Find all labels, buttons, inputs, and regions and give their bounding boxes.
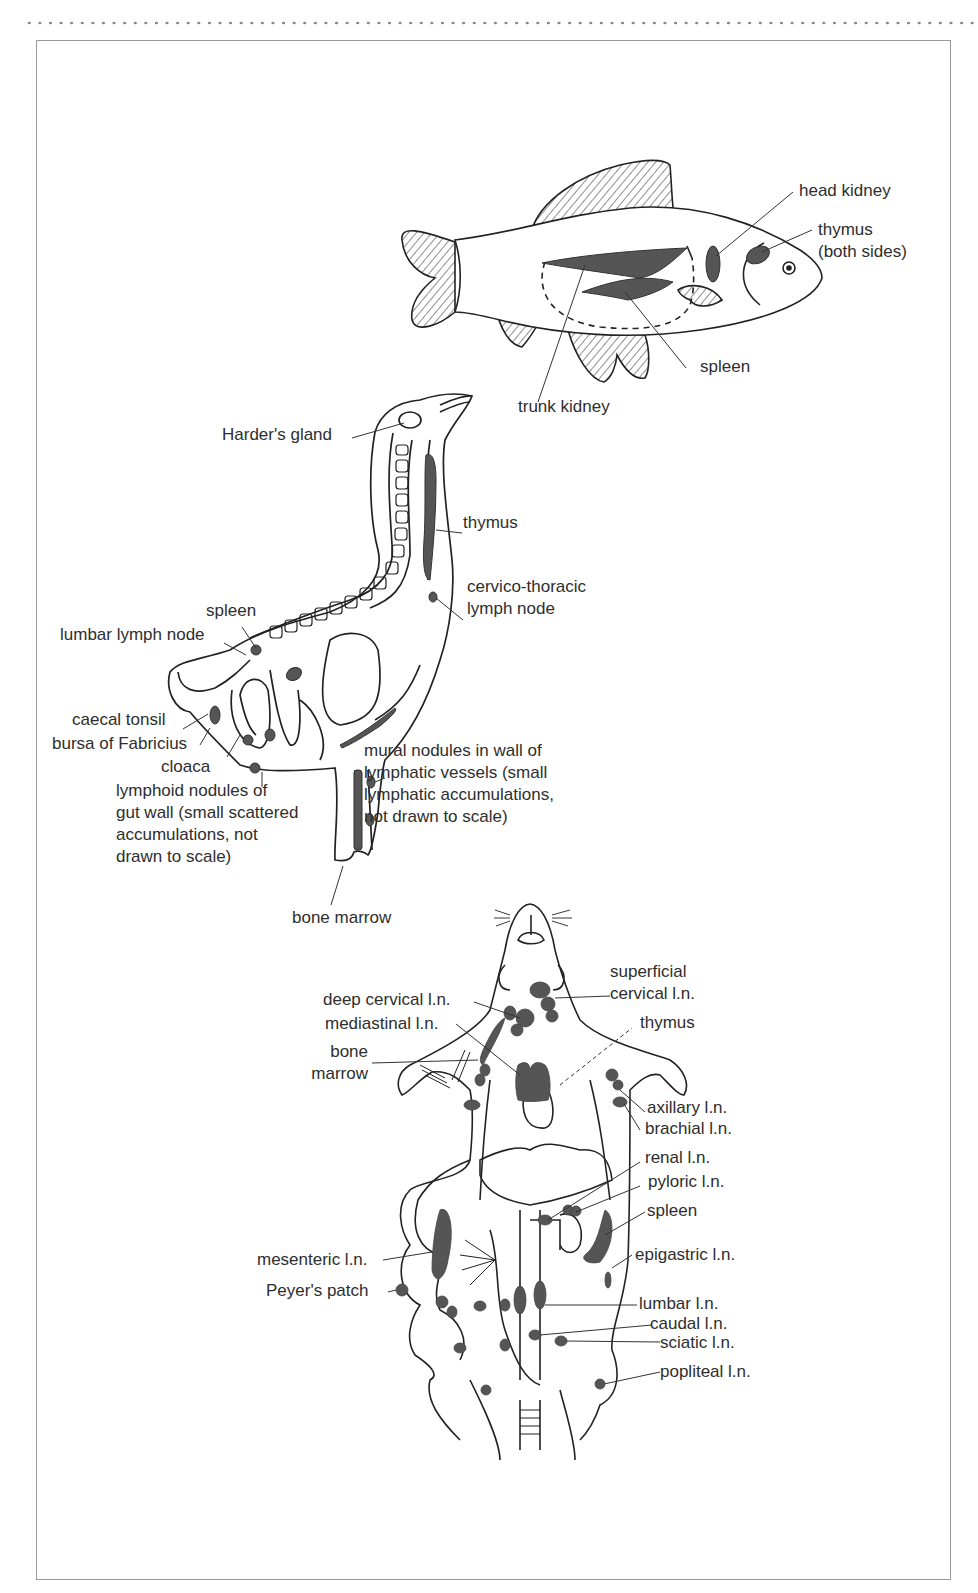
bird-label-caecal-tonsil: caecal tonsil — [72, 709, 166, 731]
mouse-superficial-cervical-3 — [546, 1010, 558, 1022]
bird-cervico-thoracic-node — [429, 592, 437, 602]
mouse-gut-nodule-5 — [454, 1343, 466, 1353]
bird-label-harders-gland: Harder's gland — [222, 424, 332, 446]
bird-label-lymphoid-nodules: lymphoid nodules of gut wall (small scat… — [116, 780, 298, 868]
bird-spleen — [251, 645, 261, 655]
bird-bone-marrow — [354, 770, 362, 850]
bird-gut-nodule-2 — [265, 729, 275, 741]
fish-label-spleen: spleen — [700, 356, 750, 378]
mouse-caudal — [529, 1330, 541, 1340]
mouse-bone-marrow-streak — [480, 1018, 505, 1065]
mouse-gut-nodule-6 — [500, 1339, 510, 1351]
fish-label-thymus: thymus (both sides) — [818, 219, 907, 263]
mouse-peyers-patch — [396, 1284, 408, 1296]
mouse-gut-nodule-1 — [436, 1296, 448, 1308]
mouse-label-superficial-cervical: superficial cervical l.n. — [610, 961, 695, 1005]
mouse-gut-nodule-3 — [474, 1301, 486, 1311]
mouse-axillary-right-1 — [606, 1069, 618, 1081]
bird-gut-nodule-3 — [250, 763, 260, 773]
bird-label-thymus: thymus — [463, 512, 518, 534]
mouse-gut-nodule-4 — [500, 1299, 510, 1311]
mouse-label-mesenteric: mesenteric l.n. — [257, 1249, 368, 1271]
mouse-mesenteric — [432, 1209, 451, 1278]
bird-label-bursa-of-fabricius: bursa of Fabricius — [52, 733, 187, 755]
bird-label-mural-nodules: mural nodules in wall of lymphatic vesse… — [364, 740, 554, 828]
mouse-label-brachial: brachial l.n. — [645, 1118, 732, 1140]
mouse-label-sciatic: sciatic l.n. — [660, 1332, 735, 1354]
bird-label-lumbar-lymph-node: lumbar lymph node — [60, 624, 205, 646]
bird-label-spleen: spleen — [206, 600, 256, 622]
mouse-label-mediastinal: mediastinal l.n. — [325, 1013, 438, 1035]
mouse-axillary-right-2 — [613, 1080, 623, 1090]
mouse-popliteal-right — [595, 1379, 605, 1389]
mouse-popliteal-left — [481, 1385, 491, 1395]
mouse-superficial-cervical-1 — [530, 982, 550, 998]
mouse-deep-cervical-2 — [511, 1024, 523, 1036]
mouse-lumbar-1 — [514, 1286, 526, 1314]
mouse-axillary-left-2 — [475, 1074, 485, 1086]
mouse-epigastric — [605, 1272, 611, 1288]
mouse-label-lumbar: lumbar l.n. — [639, 1293, 718, 1315]
mouse-label-popliteal: popliteal l.n. — [660, 1361, 751, 1383]
mouse-label-epigastric: epigastric l.n. — [635, 1244, 735, 1266]
mouse-leader-lines — [372, 996, 660, 1384]
mouse-thymus — [516, 1063, 550, 1102]
mouse-brachial-left — [464, 1100, 480, 1110]
bird-gut-nodule-1 — [243, 735, 253, 745]
mouse-gut-nodule-2 — [447, 1306, 457, 1318]
mouse-lumbar-2 — [534, 1281, 546, 1309]
bird-caecal-tonsil — [210, 706, 220, 724]
mouse-spleen — [584, 1210, 612, 1263]
mouse-label-renal: renal l.n. — [645, 1147, 710, 1169]
mouse-label-thymus: thymus — [640, 1012, 695, 1034]
mouse-renal — [538, 1215, 552, 1225]
fish-head-kidney — [706, 246, 720, 282]
mouse-label-peyers-patch: Peyer's patch — [266, 1280, 368, 1302]
mouse-superficial-cervical-2 — [541, 997, 555, 1011]
mouse-label-axillary: axillary l.n. — [647, 1097, 727, 1119]
bird-label-bone-marrow: bone marrow — [292, 907, 391, 929]
bird-label-cloaca: cloaca — [161, 756, 210, 778]
mouse-label-pyloric: pyloric l.n. — [648, 1171, 725, 1193]
mouse-label-deep-cervical: deep cervical l.n. — [323, 989, 451, 1011]
fish-label-head-kidney: head kidney — [799, 180, 891, 202]
mouse-label-spleen: spleen — [647, 1200, 697, 1222]
mouse-label-bone-marrow: bone marrow — [306, 1041, 368, 1085]
fish-label-trunk-kidney: trunk kidney — [518, 396, 610, 418]
bird-label-cervico-thoracic: cervico-thoracic lymph node — [467, 576, 586, 620]
mouse-sciatic — [555, 1336, 567, 1346]
